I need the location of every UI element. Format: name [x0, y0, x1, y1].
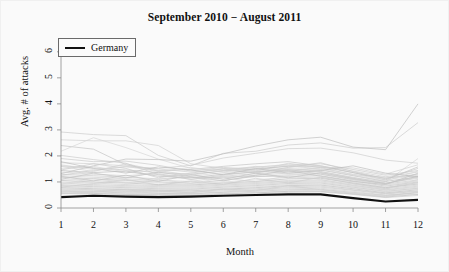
x-tick-label: 4 — [148, 219, 168, 230]
x-tick-label: 10 — [343, 219, 363, 230]
series-layer — [61, 104, 418, 202]
x-tick-label: 2 — [83, 219, 103, 230]
x-tick-label: 1 — [51, 219, 71, 230]
x-tick-label: 11 — [376, 219, 396, 230]
y-tick-label: 0 — [43, 200, 54, 214]
x-tick-label: 3 — [116, 219, 136, 230]
x-tick-label: 5 — [181, 219, 201, 230]
y-tick-label: 5 — [43, 69, 54, 83]
x-tick-label: 12 — [408, 219, 428, 230]
legend-label-germany: Germany — [91, 42, 128, 53]
y-tick-label: 1 — [43, 173, 54, 187]
x-axis-title: Month — [61, 246, 419, 257]
x-tick-label: 8 — [278, 219, 298, 230]
chart-figure: September 2010 − August 2011 Avg. # of a… — [0, 0, 449, 272]
x-tick-label: 6 — [213, 219, 233, 230]
x-tick-label: 7 — [246, 219, 266, 230]
x-tick-label: 9 — [311, 219, 331, 230]
series-line — [61, 104, 418, 174]
legend-line-swatch — [65, 47, 85, 49]
y-axis-title: Avg. # of attacks — [19, 22, 30, 162]
y-tick-label: 3 — [43, 121, 54, 135]
y-tick-label: 4 — [43, 95, 54, 109]
y-tick-label: 6 — [43, 43, 54, 57]
chart-legend: Germany — [58, 38, 136, 57]
y-tick-label: 2 — [43, 147, 54, 161]
